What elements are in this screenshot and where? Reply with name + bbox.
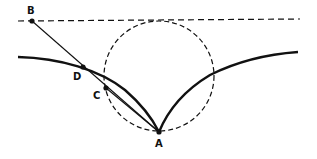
- right-cusp-curve: [159, 52, 298, 132]
- label-A: A: [155, 138, 163, 149]
- point-C-marker: [103, 85, 108, 90]
- diagram-canvas: B D C A: [0, 0, 317, 159]
- point-B-marker: [29, 18, 34, 23]
- label-B: B: [27, 5, 35, 16]
- point-D-marker: [80, 64, 85, 69]
- segment-CA: [106, 88, 159, 132]
- label-D: D: [73, 71, 81, 82]
- segment-BA: [32, 21, 159, 132]
- label-C: C: [93, 90, 100, 101]
- point-A-marker: [156, 129, 161, 134]
- rolling-circle: [104, 21, 214, 131]
- left-cusp-curve: [18, 57, 159, 132]
